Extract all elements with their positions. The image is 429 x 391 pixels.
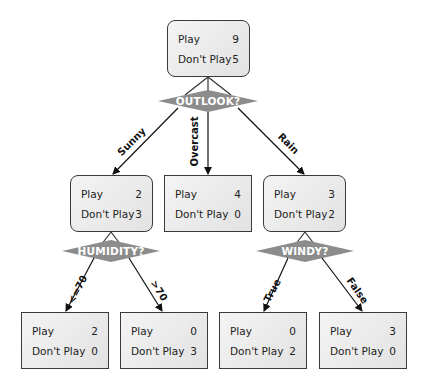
le70-dont-count: 0 [91,345,98,357]
gt70-play-count: 0 [190,325,197,337]
root-dont-label: Don't Play [178,53,231,65]
rain-play-label: Play [274,188,296,200]
overcast-dont-label: Don't Play [175,208,228,220]
sunny-dont-label: Don't Play [81,208,134,220]
rain-dont-label: Don't Play [274,208,327,220]
le70-dont-label: Don't Play [32,345,85,357]
le70-play-count: 2 [91,325,98,337]
true-dont-count: 2 [289,345,296,357]
root-play-label: Play [178,33,200,45]
true-node: Play0 Don't Play2 [219,312,307,369]
sunny-dont-count: 3 [135,208,142,220]
sunny-node: Play2 Don't Play3 [70,175,153,232]
gt70-dont-label: Don't Play [131,345,184,357]
false-play-label: Play [330,325,352,337]
true-play-count: 0 [289,325,296,337]
root-dont-count: 5 [232,53,239,65]
overcast-play-count: 4 [234,188,241,200]
rain-dont-count: 2 [328,208,335,220]
edge-label-overcast: Overcast [189,116,200,166]
overcast-node: Play4 Don't Play0 [164,175,252,232]
root-node: Play9 Don't Play5 [167,20,250,77]
sunny-play-label: Play [81,188,103,200]
root-play-count: 9 [232,33,239,45]
rain-play-count: 3 [328,188,335,200]
overcast-play-label: Play [175,188,197,200]
gt70-node: Play0 Don't Play3 [120,312,208,369]
gt70-dont-count: 3 [190,345,197,357]
le70-node: Play2 Don't Play0 [21,312,109,369]
false-play-count: 3 [389,325,396,337]
humidity-question: HUMIDITY? [78,245,145,257]
true-dont-label: Don't Play [230,345,283,357]
true-play-label: Play [230,325,252,337]
false-dont-label: Don't Play [330,345,383,357]
overcast-dont-count: 0 [234,208,241,220]
false-dont-count: 0 [389,345,396,357]
sunny-play-count: 2 [135,188,142,200]
false-node: Play3 Don't Play0 [319,312,407,369]
rain-node: Play3 Don't Play2 [263,175,346,232]
gt70-play-label: Play [131,325,153,337]
le70-play-label: Play [32,325,54,337]
outlook-question: OUTLOOK? [176,95,241,107]
windy-question: WINDY? [281,245,328,257]
